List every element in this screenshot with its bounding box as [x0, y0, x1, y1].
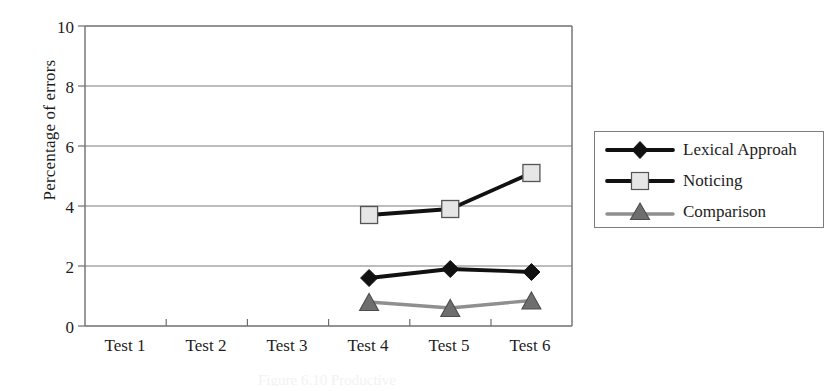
- y-axis-ticks: [78, 26, 85, 326]
- series-noticing: [361, 165, 540, 224]
- legend-marker-diamond-icon: [603, 135, 677, 165]
- legend-marker-triangle-icon: [603, 197, 677, 227]
- data-point-marker: [442, 201, 459, 218]
- legend-entry-comparison: Comparison: [595, 196, 823, 228]
- series-comparison: [360, 292, 541, 317]
- legend-label-noticing: Noticing: [683, 171, 743, 191]
- data-point-marker: [442, 261, 459, 278]
- data-point-marker: [523, 165, 540, 182]
- legend-label-lexical-approah: Lexical Approah: [683, 140, 797, 160]
- legend-label-comparison: Comparison: [683, 202, 766, 222]
- legend-entry-lexical-approah: Lexical Approah: [595, 134, 823, 166]
- caption-remnant: Figure 6.10 Productive: [258, 372, 588, 386]
- series-lexical-approah: [361, 261, 540, 287]
- legend: Lexical Approah Noticing Comparison: [594, 131, 824, 228]
- legend-marker-square-icon: [603, 166, 677, 196]
- gridlines: [85, 86, 572, 266]
- plot-frame: [85, 26, 572, 326]
- legend-entry-noticing: Noticing: [595, 165, 823, 197]
- data-point-marker: [361, 207, 378, 224]
- data-point-marker: [361, 270, 378, 287]
- x-axis-ticks: [166, 319, 491, 326]
- chart-figure: Percentage of errors 10 8 6 4 2 0 Test 1…: [0, 0, 829, 391]
